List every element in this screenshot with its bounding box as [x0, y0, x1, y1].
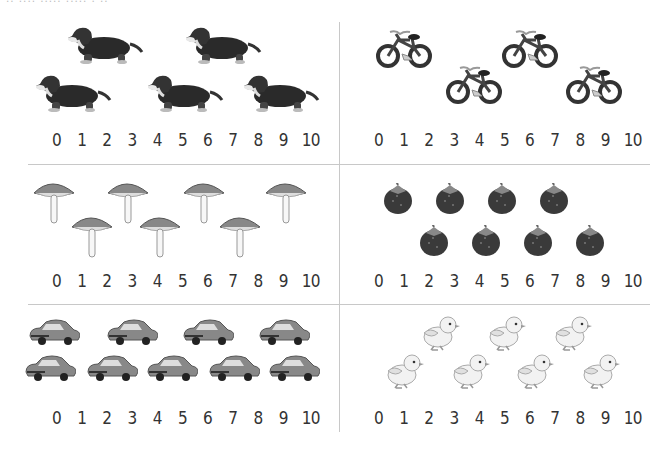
dog-icon — [64, 24, 148, 66]
number-0[interactable]: 0 — [366, 271, 391, 291]
number-6[interactable]: 6 — [195, 408, 220, 428]
number-10[interactable]: 10 — [296, 130, 326, 150]
number-7[interactable]: 7 — [542, 408, 567, 428]
number-2[interactable]: 2 — [416, 130, 441, 150]
number-9[interactable]: 9 — [271, 271, 296, 291]
number-1[interactable]: 1 — [69, 130, 94, 150]
number-8[interactable]: 8 — [246, 271, 271, 291]
object-group-mushrooms — [20, 175, 340, 285]
number-0[interactable]: 0 — [44, 408, 69, 428]
number-9[interactable]: 9 — [593, 130, 618, 150]
car-icon — [182, 318, 234, 348]
number-3[interactable]: 3 — [120, 130, 145, 150]
car-icon — [106, 318, 158, 348]
car-icon — [146, 354, 198, 384]
number-7[interactable]: 7 — [220, 130, 245, 150]
number-2[interactable]: 2 — [94, 271, 119, 291]
number-3[interactable]: 3 — [442, 271, 467, 291]
number-9[interactable]: 9 — [271, 408, 296, 428]
number-1[interactable]: 1 — [69, 271, 94, 291]
car-icon — [268, 354, 320, 384]
number-2[interactable]: 2 — [94, 408, 119, 428]
number-2[interactable]: 2 — [416, 408, 441, 428]
car-icon — [86, 354, 138, 384]
number-5[interactable]: 5 — [170, 408, 195, 428]
number-10[interactable]: 10 — [296, 271, 326, 291]
number-8[interactable]: 8 — [246, 408, 271, 428]
number-9[interactable]: 9 — [271, 130, 296, 150]
chick-icon — [580, 353, 622, 391]
number-10[interactable]: 10 — [618, 408, 648, 428]
number-0[interactable]: 0 — [366, 408, 391, 428]
dog-icon — [144, 72, 228, 114]
chick-icon — [420, 315, 462, 353]
number-2[interactable]: 2 — [416, 271, 441, 291]
chick-icon — [384, 353, 426, 391]
number-7[interactable]: 7 — [220, 271, 245, 291]
dog-icon — [32, 72, 116, 114]
number-6[interactable]: 6 — [195, 271, 220, 291]
number-10[interactable]: 10 — [618, 271, 648, 291]
object-group-strawberries — [370, 175, 663, 285]
number-6[interactable]: 6 — [517, 408, 542, 428]
number-8[interactable]: 8 — [568, 271, 593, 291]
number-9[interactable]: 9 — [593, 408, 618, 428]
number-line-strawberries: 0 1 2 3 4 5 6 7 8 9 10 — [366, 271, 648, 291]
number-3[interactable]: 3 — [120, 271, 145, 291]
strawberry-icon — [524, 225, 554, 259]
number-0[interactable]: 0 — [366, 130, 391, 150]
number-line-mushrooms: 0 1 2 3 4 5 6 7 8 9 10 — [44, 271, 326, 291]
number-5[interactable]: 5 — [170, 130, 195, 150]
number-4[interactable]: 4 — [145, 271, 170, 291]
number-8[interactable]: 8 — [246, 130, 271, 150]
number-6[interactable]: 6 — [517, 271, 542, 291]
number-10[interactable]: 10 — [618, 130, 648, 150]
strawberry-icon — [540, 183, 570, 217]
number-4[interactable]: 4 — [145, 130, 170, 150]
number-7[interactable]: 7 — [220, 408, 245, 428]
number-9[interactable]: 9 — [593, 271, 618, 291]
number-4[interactable]: 4 — [467, 130, 492, 150]
number-4[interactable]: 4 — [145, 408, 170, 428]
number-7[interactable]: 7 — [542, 130, 567, 150]
car-icon — [208, 354, 260, 384]
number-10[interactable]: 10 — [296, 408, 326, 428]
strawberry-icon — [472, 225, 502, 259]
number-1[interactable]: 1 — [391, 271, 416, 291]
horizontal-divider-2 — [28, 304, 650, 305]
number-1[interactable]: 1 — [391, 130, 416, 150]
object-group-chicks — [380, 313, 663, 423]
number-5[interactable]: 5 — [492, 408, 517, 428]
cropped-header-text: ․․ ․․․․ ․․․․․ ․․․․․ ․ ․․ — [6, 0, 326, 4]
number-7[interactable]: 7 — [542, 271, 567, 291]
number-2[interactable]: 2 — [94, 130, 119, 150]
number-0[interactable]: 0 — [44, 130, 69, 150]
bicycle-icon — [376, 26, 434, 70]
object-group-bicycles — [360, 22, 663, 132]
panel-mushrooms — [20, 175, 340, 285]
number-3[interactable]: 3 — [442, 130, 467, 150]
car-icon — [258, 318, 310, 348]
number-0[interactable]: 0 — [44, 271, 69, 291]
number-5[interactable]: 5 — [170, 271, 195, 291]
number-5[interactable]: 5 — [492, 130, 517, 150]
number-3[interactable]: 3 — [442, 408, 467, 428]
strawberry-icon — [576, 225, 606, 259]
number-4[interactable]: 4 — [467, 408, 492, 428]
number-4[interactable]: 4 — [467, 271, 492, 291]
chick-icon — [486, 315, 528, 353]
number-line-dogs: 0 1 2 3 4 5 6 7 8 9 10 — [44, 130, 326, 150]
number-6[interactable]: 6 — [517, 130, 542, 150]
number-8[interactable]: 8 — [568, 408, 593, 428]
number-3[interactable]: 3 — [120, 408, 145, 428]
number-6[interactable]: 6 — [195, 130, 220, 150]
number-line-cars: 0 1 2 3 4 5 6 7 8 9 10 — [44, 408, 326, 428]
chick-icon — [552, 315, 594, 353]
strawberry-icon — [436, 183, 466, 217]
number-1[interactable]: 1 — [391, 408, 416, 428]
number-5[interactable]: 5 — [492, 271, 517, 291]
number-8[interactable]: 8 — [568, 130, 593, 150]
panel-chicks — [380, 313, 663, 423]
mushroom-icon — [218, 211, 264, 259]
number-1[interactable]: 1 — [69, 408, 94, 428]
